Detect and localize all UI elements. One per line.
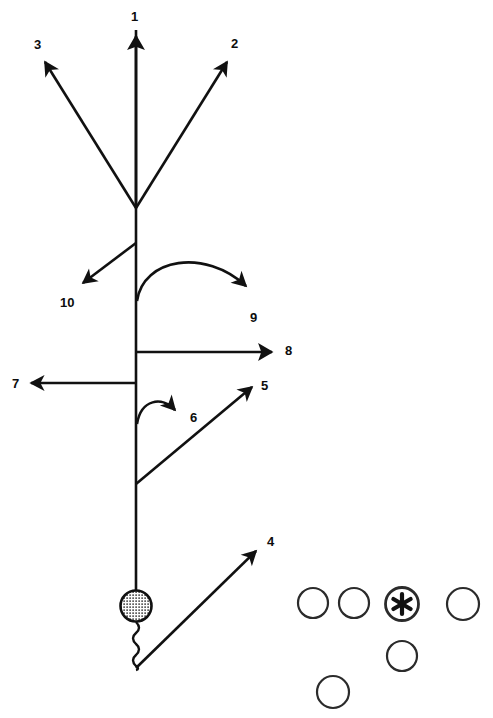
arrow-9-arc bbox=[137, 262, 246, 301]
label-2: 2 bbox=[231, 37, 238, 50]
arrow-2-shaft bbox=[136, 62, 227, 208]
circle-marker-4 bbox=[447, 588, 479, 620]
squiggle-tail bbox=[133, 622, 139, 670]
label-10: 10 bbox=[60, 296, 74, 309]
arrow-3-shaft bbox=[45, 62, 136, 208]
diagram-canvas: 1 2 3 4 5 6 7 8 9 10 bbox=[0, 0, 493, 718]
label-4: 4 bbox=[267, 535, 274, 548]
arrow-4-shaft bbox=[136, 551, 256, 668]
label-1: 1 bbox=[131, 10, 138, 23]
circle-marker-1 bbox=[298, 588, 328, 618]
label-5: 5 bbox=[261, 379, 268, 392]
arrow-6-arc bbox=[137, 402, 175, 424]
arrow-10-shaft bbox=[83, 243, 136, 283]
diagram-svg bbox=[0, 0, 493, 718]
label-9: 9 bbox=[250, 311, 257, 324]
label-8: 8 bbox=[285, 344, 292, 357]
circle-marker-6 bbox=[317, 676, 349, 708]
hatched-ball bbox=[121, 591, 152, 622]
circle-marker-2 bbox=[339, 588, 369, 618]
asterisk-icon bbox=[393, 594, 410, 614]
label-7: 7 bbox=[12, 377, 19, 390]
label-6: 6 bbox=[190, 411, 197, 424]
label-3: 3 bbox=[34, 38, 41, 51]
circle-marker-5 bbox=[387, 641, 417, 671]
